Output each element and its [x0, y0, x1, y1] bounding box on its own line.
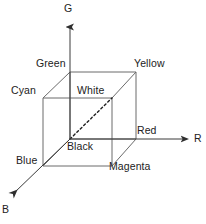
gray-axis-dashed-diagonal — [70, 98, 112, 139]
vertex-label-black: Black — [67, 140, 93, 152]
vertex-label-red: Red — [137, 124, 157, 136]
vertex-label-magenta: Magenta — [109, 160, 151, 172]
vertex-label-cyan: Cyan — [11, 84, 36, 96]
axis-label-r: R — [194, 132, 202, 144]
vertex-label-blue: Blue — [16, 154, 37, 166]
edge-white-yellow — [112, 72, 136, 98]
vertex-label-green: Green — [36, 57, 66, 69]
axis-label-g: G — [64, 2, 72, 14]
edge-cyan-green — [43, 72, 70, 98]
coordinate-axes — [14, 27, 185, 193]
rgb-color-cube-diagram — [0, 0, 206, 224]
vertex-label-yellow: Yellow — [134, 57, 165, 69]
vertex-label-white: White — [77, 84, 104, 96]
axis-label-b: B — [2, 203, 9, 215]
